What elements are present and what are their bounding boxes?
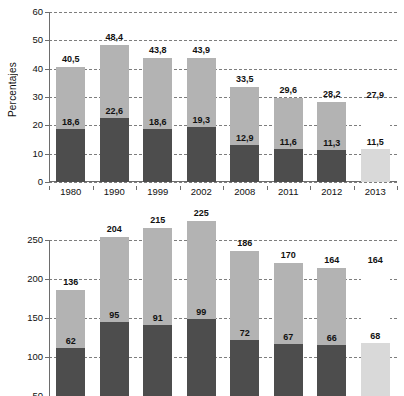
bar-segment-lower (187, 127, 216, 182)
x-tick-1999 (136, 186, 137, 190)
x-tick-2002 (180, 186, 181, 190)
y-tick-label-50: 50 (13, 35, 43, 44)
bar-total-label-2012: 28,2 (323, 90, 341, 99)
bar-2008[interactable]: 18672 (230, 251, 259, 396)
bar-segment-lower (317, 150, 346, 182)
bar-lower-label-2011: 67 (283, 333, 293, 342)
bar-total-label-2013: 164 (368, 256, 383, 265)
y-tick-40 (45, 69, 50, 70)
bar-lower-label-1990: 95 (109, 311, 119, 320)
bar-1990[interactable]: 20495 (100, 237, 129, 396)
bar-segment-upper (187, 221, 216, 319)
y-tick-label-100: 100 (13, 352, 43, 361)
x-axis-label-1999: 1999 (136, 186, 180, 198)
plot-area-millions: 1366220495215912259918672170671646616468 (49, 240, 397, 396)
bar-total-label-2011: 170 (281, 251, 296, 260)
percentages-chart: Percentajes 40,518,648,422,643,818,643,9… (0, 0, 404, 205)
plot-area-percentages: 40,518,648,422,643,818,643,919,333,512,9… (49, 12, 397, 182)
x-axis-label-2002: 2002 (180, 186, 224, 198)
bar-2011[interactable]: 17067 (274, 263, 303, 396)
bar-1990[interactable]: 48,422,6 (100, 45, 129, 182)
bar-segment-lower (56, 348, 85, 396)
bar-2002[interactable]: 22599 (187, 221, 216, 396)
x-axis-label-2012: 2012 (310, 186, 354, 198)
x-axis-label-2008: 2008 (223, 186, 267, 198)
bar-segment-lower (187, 319, 216, 396)
bar-lower-label-2002: 19,3 (192, 116, 210, 125)
bar-lower-label-2013: 68 (370, 332, 380, 341)
x-tick-2013 (354, 186, 355, 190)
bar-total-label-2013: 27,9 (366, 91, 384, 100)
bar-total-label-1990: 48,4 (105, 33, 123, 42)
bar-segment-upper (143, 228, 172, 325)
x-tick-2008 (223, 186, 224, 190)
y-tick-label-150: 150 (13, 313, 43, 322)
x-axis-labels-percentages: 19801990199920022008201120122013 (49, 186, 397, 200)
bar-lower-label-2013: 11,5 (367, 138, 384, 147)
bar-lower-label-1999: 91 (153, 314, 163, 323)
bar-total-label-2008: 33,5 (236, 75, 254, 84)
bar-lower-label-2012: 66 (327, 334, 337, 343)
y-tick-20 (45, 125, 50, 126)
bar-lower-label-2011: 11,6 (280, 138, 297, 147)
bar-lower-label-1999: 18,6 (149, 118, 167, 127)
x-tick-1990 (93, 186, 94, 190)
y-tick-100 (45, 357, 50, 358)
bar-1999[interactable]: 43,818,6 (143, 58, 172, 182)
x-axis-label-2013: 2013 (354, 186, 398, 198)
bar-2011[interactable]: 29,611,6 (274, 98, 303, 182)
y-tick-200 (45, 279, 50, 280)
x-axis-label-1980: 1980 (49, 186, 93, 198)
x-tick-2011 (267, 186, 268, 190)
y-tick-label-40: 40 (13, 64, 43, 73)
y-tick-label-0: 0 (13, 177, 43, 186)
bar-2013[interactable]: 16468 (361, 268, 390, 396)
x-tick-1980 (49, 186, 50, 190)
bar-segment-lower (361, 149, 390, 182)
bar-lower-label-2008: 72 (240, 329, 250, 338)
bar-2008[interactable]: 33,512,9 (230, 87, 259, 182)
millions-chart: Millones de personas 1366220495215912259… (0, 205, 404, 396)
bar-1999[interactable]: 21591 (143, 228, 172, 396)
bar-1980[interactable]: 40,518,6 (56, 67, 85, 182)
bar-segment-lower (100, 322, 129, 396)
bar-segment-lower (317, 345, 346, 396)
bar-lower-label-1980: 18,6 (62, 118, 80, 127)
bar-2013[interactable]: 27,911,5 (361, 103, 390, 182)
bar-segment-upper (230, 251, 259, 340)
bar-total-label-2011: 29,6 (279, 86, 297, 95)
bar-total-label-1990: 204 (107, 225, 122, 234)
bar-lower-label-2008: 12,9 (236, 134, 254, 143)
bar-total-label-1980: 136 (63, 278, 78, 287)
y-tick-label-200: 200 (13, 274, 43, 283)
bar-lower-label-2012: 11,3 (323, 139, 340, 148)
bar-segment-lower (274, 149, 303, 182)
x-tick-2012 (310, 186, 311, 190)
bar-lower-label-1980: 62 (66, 337, 76, 346)
bar-total-label-1999: 43,8 (149, 46, 167, 55)
bar-total-label-1980: 40,5 (62, 55, 80, 64)
y-tick-50 (45, 40, 50, 41)
y-tick-label-30: 30 (13, 92, 43, 101)
y-tick-label-20: 20 (13, 120, 43, 129)
bar-segment-lower (143, 325, 172, 396)
y-tick-label-50: 50 (13, 391, 43, 396)
x-axis-label-2011: 2011 (267, 186, 311, 198)
bar-2012[interactable]: 16466 (317, 268, 346, 396)
bar-total-label-2012: 164 (324, 256, 339, 265)
x-tick-end (397, 186, 398, 190)
bar-total-label-1999: 215 (150, 216, 165, 225)
bar-segment-lower (274, 344, 303, 396)
gridline-50 (49, 40, 397, 41)
bar-lower-label-2002: 99 (196, 308, 206, 317)
bar-segment-lower (56, 129, 85, 182)
bar-1980[interactable]: 13662 (56, 290, 85, 396)
bar-2002[interactable]: 43,919,3 (187, 58, 216, 182)
bar-2012[interactable]: 28,211,3 (317, 102, 346, 182)
bar-segment-lower (230, 340, 259, 396)
y-tick-label-250: 250 (13, 235, 43, 244)
x-axis-label-1990: 1990 (93, 186, 137, 198)
gridline-0 (49, 182, 397, 183)
bar-total-label-2002: 225 (194, 209, 209, 218)
bar-segment-lower (143, 129, 172, 182)
